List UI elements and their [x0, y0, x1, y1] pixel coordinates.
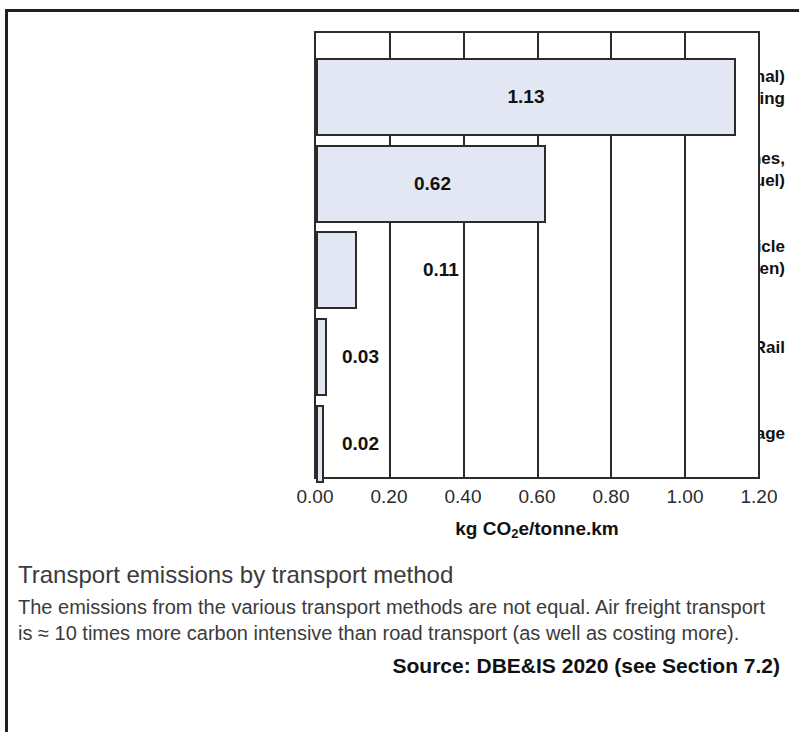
bar-value-van: 0.62: [414, 173, 451, 195]
xtick-1-00: 1.00: [667, 486, 704, 508]
xtick-0-40: 0.40: [445, 486, 482, 508]
xtick-0-20: 0.20: [371, 486, 408, 508]
xtick-1-20: 1.20: [741, 486, 778, 508]
xtick-0-00: 0.00: [297, 486, 334, 508]
caption-body: The emissions from the various transport…: [18, 594, 780, 646]
caption-title: Transport emissions by transport method: [18, 561, 780, 589]
caption-block: Transport emissions by transport method …: [18, 561, 780, 678]
bar-ship[interactable]: [316, 405, 324, 483]
x-axis-title: kg CO2e/tonne.km: [314, 518, 760, 540]
bar-van[interactable]: 0.62: [316, 145, 546, 223]
bar-value-air-freight: 1.13: [508, 86, 545, 108]
xtick-0-60: 0.60: [519, 486, 556, 508]
bar-value-rail: 0.03: [342, 346, 379, 368]
xtick-0-80: 0.80: [593, 486, 630, 508]
bar-chart: Air freight (international) with radiati…: [0, 0, 799, 556]
bar-value-hgv: 0.11: [423, 259, 459, 281]
figure-transport-emissions: Air freight (international) with radiati…: [0, 0, 799, 732]
bar-rail[interactable]: [316, 318, 327, 396]
plot-area: 1.13 0.62 0.11 0.03 0.02: [314, 31, 760, 479]
bar-air-freight[interactable]: 1.13: [316, 58, 736, 136]
bar-hgv[interactable]: [316, 231, 357, 309]
bar-value-ship: 0.02: [342, 433, 379, 455]
caption-source: Source: DBE&IS 2020 (see Section 7.2): [18, 654, 780, 678]
